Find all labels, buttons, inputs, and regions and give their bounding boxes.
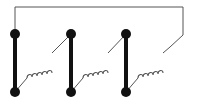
- conductor-3: [121, 29, 131, 97]
- terminal-node: [10, 29, 20, 39]
- conductor-1: [10, 29, 20, 97]
- return-wire: [15, 7, 183, 47]
- terminal-node: [66, 29, 76, 39]
- coil-2: [71, 34, 126, 92]
- terminal-node: [121, 87, 131, 97]
- coil-3: [126, 47, 170, 92]
- coil-1: [15, 34, 71, 92]
- terminal-node: [121, 29, 131, 39]
- conductor-2: [66, 29, 76, 97]
- circuit-diagram: [0, 0, 197, 105]
- terminal-node: [10, 87, 20, 97]
- terminal-node: [66, 87, 76, 97]
